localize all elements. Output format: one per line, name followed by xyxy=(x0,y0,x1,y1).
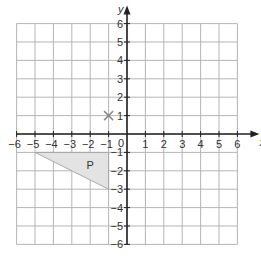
y-axis-label: y xyxy=(117,3,125,15)
x-tick-label: 1 xyxy=(142,138,148,150)
x-tick-label: −5 xyxy=(27,138,40,150)
x-tick-label: 2 xyxy=(161,138,167,150)
x-axis-arrow-icon xyxy=(250,131,259,138)
x-axis-label: x xyxy=(258,136,261,148)
x-tick-label: 5 xyxy=(216,138,222,150)
tick-labels: −6−5−4−3−2−1123456−6−5−4−3−2−11234560xy xyxy=(8,3,261,251)
y-tick-label: 6 xyxy=(117,18,123,30)
y-tick-label: −3 xyxy=(110,183,123,195)
origin-label: 0 xyxy=(118,137,124,149)
x-tick-label: −4 xyxy=(45,138,58,150)
y-tick-label: −4 xyxy=(110,202,123,214)
y-tick-label: −2 xyxy=(110,165,123,177)
x-tick-label: 6 xyxy=(234,138,240,150)
x-tick-label: 4 xyxy=(198,138,204,150)
y-tick-label: −6 xyxy=(110,238,123,250)
y-tick-label: 5 xyxy=(117,36,123,48)
y-tick-label: 1 xyxy=(117,110,123,122)
x-tick-label: 3 xyxy=(179,138,185,150)
grid-svg: P −6−5−4−3−2−1123456−6−5−4−3−2−11234560x… xyxy=(0,0,261,260)
y-tick-label: −5 xyxy=(110,220,123,232)
x-tick-label: −2 xyxy=(82,138,95,150)
y-tick-label: 3 xyxy=(117,73,123,85)
coordinate-grid-diagram: P −6−5−4−3−2−1123456−6−5−4−3−2−11234560x… xyxy=(0,0,261,260)
y-tick-label: 2 xyxy=(117,91,123,103)
x-tick-label: −6 xyxy=(8,138,21,150)
y-tick-label: 4 xyxy=(117,54,123,66)
y-axis-arrow-icon xyxy=(124,6,131,15)
x-tick-label: −3 xyxy=(64,138,77,150)
shape-label: P xyxy=(87,159,94,171)
